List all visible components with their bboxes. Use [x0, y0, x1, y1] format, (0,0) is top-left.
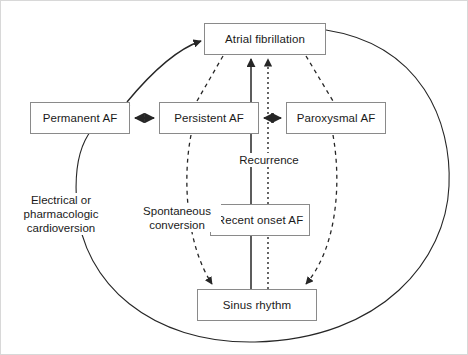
edge-label-recurrence: Recurrence: [229, 153, 309, 167]
node-persistent-af[interactable]: Persistent AF: [159, 102, 259, 134]
node-recent-onset-af[interactable]: Recent onset AF: [210, 204, 310, 236]
node-sinus-rhythm[interactable]: Sinus rhythm: [197, 289, 317, 321]
node-atrial-fibrillation[interactable]: Atrial fibrillation: [204, 23, 326, 55]
node-paroxysmal-af[interactable]: Paroxysmal AF: [286, 102, 386, 134]
node-permanent-af[interactable]: Permanent AF: [30, 102, 130, 134]
edge-paroxysmal-to-sinus-dashed: [306, 135, 337, 284]
edge-permanent-to-af: [127, 41, 201, 102]
edge-af-to-persistent-dashed: [197, 56, 223, 101]
edge-label-cardioversion: Electrical or pharmacologic cardioversio…: [9, 193, 113, 235]
edge-af-to-paroxysmal-dashed: [306, 56, 333, 101]
edge-label-spontaneous-conversion: Spontaneous conversion: [133, 204, 221, 232]
figure-container: Atrial fibrillation Permanent AF Persist…: [0, 0, 468, 355]
